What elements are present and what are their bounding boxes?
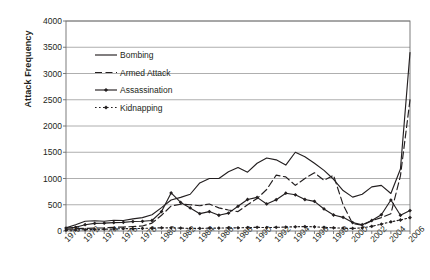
series-marker-3 xyxy=(313,225,317,229)
series-marker-3 xyxy=(379,222,383,226)
series-marker-3 xyxy=(255,225,259,229)
series-marker-3 xyxy=(160,226,164,230)
series-marker-2 xyxy=(93,221,97,225)
series-marker-3 xyxy=(150,226,154,230)
series-line-2 xyxy=(66,193,410,228)
series-marker-3 xyxy=(141,226,145,230)
series-marker-3 xyxy=(227,226,231,230)
series-marker-3 xyxy=(236,226,240,230)
series-marker-3 xyxy=(188,226,192,230)
series-marker-3 xyxy=(198,226,202,230)
series-marker-3 xyxy=(179,226,183,230)
series-line-0 xyxy=(66,53,410,228)
series-marker-3 xyxy=(389,220,393,224)
series-marker-2 xyxy=(293,193,297,197)
series-marker-3 xyxy=(341,226,345,230)
plot-area xyxy=(0,0,430,280)
series-marker-2 xyxy=(83,223,87,227)
series-line-1 xyxy=(66,100,410,230)
series-marker-3 xyxy=(408,216,412,220)
legend-label: Assassination xyxy=(120,85,172,95)
series-marker-3 xyxy=(332,226,336,230)
series-marker-3 xyxy=(399,218,403,222)
series-marker-2 xyxy=(112,221,116,225)
series-marker-3 xyxy=(217,226,221,230)
attack-frequency-line-chart: Attack Frequency 05001000150020002500300… xyxy=(0,0,430,280)
legend-label: Kidnapping xyxy=(120,103,163,113)
legend-label: Bombing xyxy=(120,50,154,60)
series-marker-3 xyxy=(360,226,364,230)
series-marker-2 xyxy=(102,221,106,225)
series-marker-2 xyxy=(207,210,211,214)
series-marker-2 xyxy=(131,220,135,224)
series-marker-2 xyxy=(303,198,307,202)
legend-marker-2 xyxy=(104,88,108,92)
series-marker-3 xyxy=(303,225,307,229)
series-marker-3 xyxy=(370,224,374,228)
series-marker-3 xyxy=(207,226,211,230)
series-marker-2 xyxy=(141,219,145,223)
legend-label: Armed Attack xyxy=(120,68,171,78)
series-marker-3 xyxy=(246,226,250,230)
series-marker-3 xyxy=(265,226,269,230)
series-marker-3 xyxy=(351,226,355,230)
legend-marker-3 xyxy=(104,105,108,109)
series-marker-3 xyxy=(293,225,297,229)
series-marker-2 xyxy=(408,209,412,213)
series-marker-3 xyxy=(131,227,135,231)
series-marker-3 xyxy=(322,225,326,229)
series-marker-3 xyxy=(284,225,288,229)
series-marker-3 xyxy=(169,226,173,230)
series-marker-3 xyxy=(274,225,278,229)
series-marker-2 xyxy=(217,213,221,217)
